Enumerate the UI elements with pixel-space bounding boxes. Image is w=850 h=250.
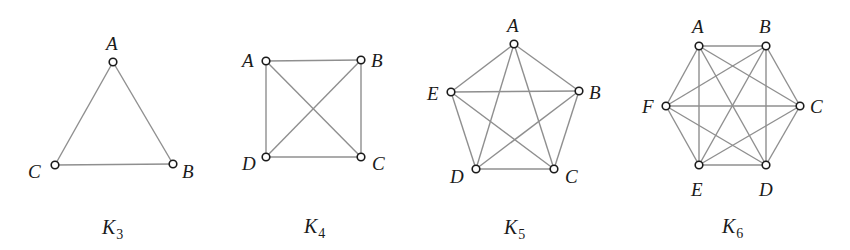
complete-graphs-diagram: ABCK3 ABCDK4 ABCDEK5 ABCDEFK6 bbox=[0, 0, 850, 250]
edge-b-f bbox=[666, 46, 766, 106]
vertex-e bbox=[447, 88, 455, 96]
vertex-b bbox=[762, 42, 770, 50]
vertex-b bbox=[169, 160, 177, 168]
edge-c-e bbox=[451, 92, 554, 169]
edge-d-f bbox=[666, 106, 766, 165]
vertex-label-c: C bbox=[372, 153, 385, 174]
edge-b-c bbox=[55, 164, 173, 165]
caption-subscript: 6 bbox=[736, 226, 743, 241]
vertex-c bbox=[51, 161, 59, 169]
vertex-a bbox=[695, 42, 703, 50]
edge-b-e bbox=[451, 91, 579, 92]
edge-a-b bbox=[266, 60, 361, 61]
graph-k4: ABCDK4 bbox=[240, 50, 385, 241]
graph-caption: K5 bbox=[503, 216, 525, 242]
vertex-d bbox=[472, 165, 480, 173]
edge-d-e bbox=[451, 92, 476, 169]
edge-b-c bbox=[766, 46, 800, 106]
caption-letter: K bbox=[101, 216, 117, 238]
edge-c-e bbox=[699, 106, 800, 165]
vertex-label-a: A bbox=[104, 33, 118, 54]
graph-k3: ABCK3 bbox=[28, 33, 194, 242]
caption-letter: K bbox=[721, 215, 737, 237]
vertex-e bbox=[695, 161, 703, 169]
graph-caption: K3 bbox=[101, 216, 123, 242]
graph-k6: ABCDEFK6 bbox=[641, 16, 823, 241]
vertex-a bbox=[510, 40, 518, 48]
vertex-label-b: B bbox=[759, 16, 771, 37]
vertex-label-f: F bbox=[641, 96, 654, 117]
edge-b-c bbox=[554, 91, 579, 169]
edge-e-f bbox=[666, 106, 699, 165]
vertex-label-d: D bbox=[758, 179, 773, 200]
vertex-label-a: A bbox=[505, 15, 519, 36]
vertex-c bbox=[796, 102, 804, 110]
edge-a-c bbox=[514, 44, 554, 169]
vertex-c bbox=[357, 153, 365, 161]
vertex-label-e: E bbox=[426, 83, 439, 104]
graph-caption: K6 bbox=[721, 215, 743, 241]
vertex-label-a: A bbox=[690, 16, 704, 37]
edge-a-f bbox=[666, 46, 699, 106]
vertex-label-c: C bbox=[810, 96, 823, 117]
vertex-label-c: C bbox=[28, 161, 41, 182]
vertex-label-b: B bbox=[589, 82, 601, 103]
edge-a-b bbox=[113, 62, 173, 164]
edge-a-d bbox=[476, 44, 514, 169]
vertex-c bbox=[550, 165, 558, 173]
caption-letter: K bbox=[503, 216, 519, 238]
edge-a-c bbox=[55, 62, 113, 165]
vertex-a bbox=[262, 57, 270, 65]
vertex-label-c: C bbox=[565, 166, 578, 187]
vertex-b bbox=[357, 56, 365, 64]
caption-letter: K bbox=[303, 215, 319, 237]
vertex-label-d: D bbox=[241, 153, 256, 174]
caption-subscript: 4 bbox=[318, 226, 325, 241]
vertex-label-b: B bbox=[371, 50, 383, 71]
vertex-label-e: E bbox=[690, 179, 703, 200]
caption-subscript: 5 bbox=[518, 227, 525, 242]
vertex-a bbox=[109, 58, 117, 66]
edge-c-d bbox=[766, 106, 800, 165]
edge-a-e bbox=[451, 44, 514, 92]
edge-b-d bbox=[476, 91, 579, 169]
vertex-f bbox=[662, 102, 670, 110]
vertex-b bbox=[575, 87, 583, 95]
graph-caption: K4 bbox=[303, 215, 325, 241]
edge-a-b bbox=[514, 44, 579, 91]
vertex-label-a: A bbox=[240, 50, 254, 71]
graph-k5: ABCDEK5 bbox=[426, 15, 601, 242]
caption-subscript: 3 bbox=[116, 227, 123, 242]
vertex-label-d: D bbox=[449, 166, 464, 187]
vertex-d bbox=[262, 153, 270, 161]
vertex-d bbox=[762, 161, 770, 169]
vertex-label-b: B bbox=[182, 161, 194, 182]
